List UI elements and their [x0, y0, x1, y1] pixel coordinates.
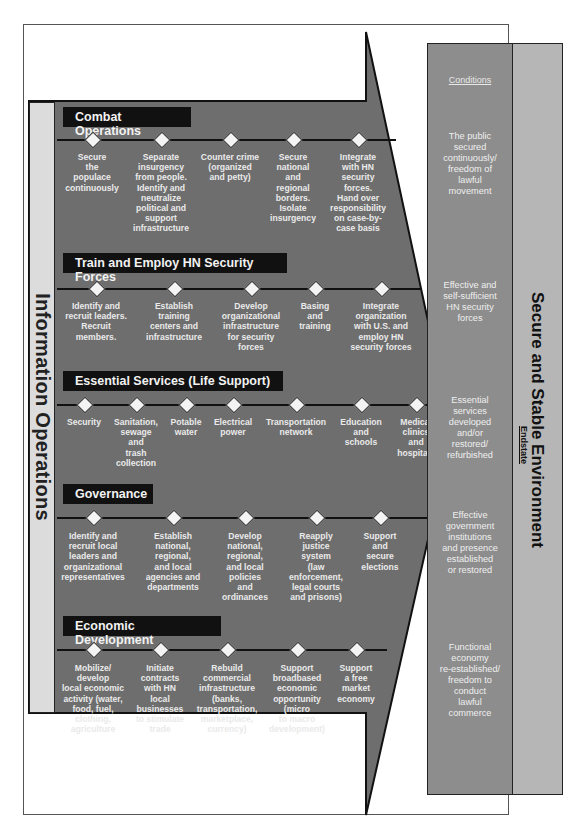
loo-item: Secure the populace continuously [65, 152, 118, 193]
loo-item: Basing and training [299, 301, 331, 332]
loo-item: Potable water [170, 417, 201, 437]
loo-item: Integrate organization with U.S. and emp… [350, 301, 411, 352]
loo-line-essential-services [57, 404, 445, 406]
loo-item: Mobilize/ develop local economic activit… [62, 663, 124, 734]
loo-item: Establish training centers and infrastru… [146, 301, 202, 342]
condition-item: Effective government institutions and pr… [428, 510, 512, 576]
loo-line-train [57, 288, 422, 290]
loo-item: Sanitation, sewage and trash collection [114, 417, 158, 468]
loo-title-economic-development: Economic Development [63, 616, 221, 636]
loo-item: Support a free market economy [337, 663, 375, 704]
loo-item: Security [67, 417, 101, 427]
loo-item: Develop organizational infrastructure fo… [222, 301, 280, 352]
loo-title-governance: Governance [63, 484, 153, 504]
loo-item: Develop national, regional, and local po… [222, 531, 268, 602]
loo-title-train-and-employ-hn-security-forces: Train and Employ HN Security Forces [63, 253, 287, 273]
condition-item: Effective and self-sufficient HN securit… [428, 280, 512, 324]
loo-title-essential-services: Essential Services (Life Support) [63, 371, 283, 391]
loo-item: Education and schools [340, 417, 382, 448]
condition-item: The public secured continuously/ freedom… [428, 131, 512, 197]
loo-item: Initiate contracts with HN local busines… [136, 663, 184, 734]
endstate-title: Secure and Stable Environment [527, 292, 547, 548]
condition-item: Functional economy re-established/ freed… [428, 642, 512, 719]
loo-item: Establish national, regional, and local … [146, 531, 200, 592]
loo-item: Support and secure elections [361, 531, 398, 572]
loo-item: Counter crime (organized and petty) [201, 152, 259, 183]
loo-item: Secure national and regional borders. Is… [270, 152, 316, 223]
loo-item: Reapply justice system (law enforcement,… [289, 531, 343, 602]
information-operations-label: Information Operations [31, 293, 54, 521]
loo-item: Support broadbased economic opportunity … [269, 663, 325, 734]
loo-item: Transportation network [266, 417, 326, 437]
loo-item: Identify and recruit local leaders and o… [61, 531, 125, 582]
loo-item: Electrical power [214, 417, 252, 437]
loo-item: Rebuild commercial infrastructure (banks… [197, 663, 258, 734]
condition-item: Essential services developed and/or rest… [428, 395, 512, 461]
loo-item: Integrate with HN security forces. Hand … [330, 152, 386, 234]
endstate-label: Endstate [519, 426, 529, 464]
loo-item: Separate insurgency from people. Identif… [133, 152, 189, 234]
loo-item: Identify and recruit leaders. Recruit me… [65, 301, 127, 342]
loo-title-combat-operations: Combat Operations [63, 107, 191, 127]
conditions-header: Conditions [449, 75, 492, 85]
